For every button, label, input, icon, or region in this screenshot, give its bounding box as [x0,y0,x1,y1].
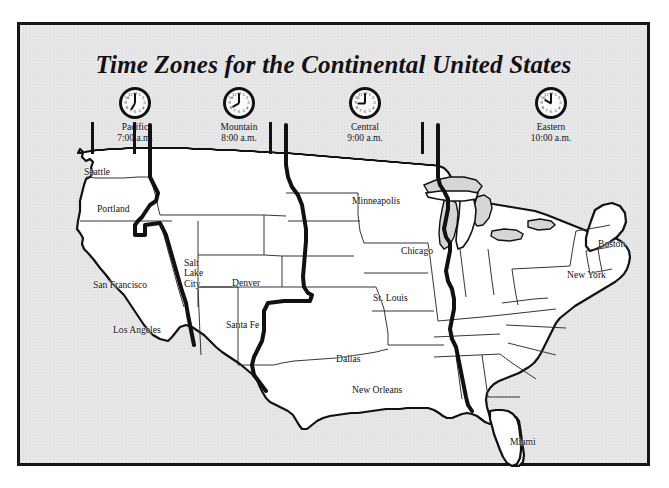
city-label-dallas: Dallas [336,354,361,365]
zone-label-mountain: Mountain [184,122,294,133]
clock-numeral: 1 [369,93,371,98]
city-label-miami: Miami [510,437,536,448]
zone-time-pacific: 7:00 a.m. [80,133,190,144]
clock-numeral: 1 [243,93,245,98]
clock-numeral: 6 [364,110,366,115]
city-label-portland: Portland [97,204,130,215]
clock-numeral: 8 [356,105,358,110]
zone-block-eastern: 12 1 2 3 4 5 6 7 8 9 10 11 Eastern 10:00… [496,87,606,144]
clock-numeral: 6 [550,110,552,115]
city-label-st-louis: St. Louis [373,293,408,304]
clock-numeral: 4 [246,105,248,110]
city-label-los-angeles: Los Angeles [113,325,161,336]
clock-numeral: 6 [134,110,136,115]
page-title: Time Zones for the Continental United St… [20,51,647,79]
city-label-minneapolis: Minneapolis [352,196,400,207]
clock-numeral: 5 [555,109,557,114]
city-label-line: City [184,279,203,289]
city-label-new-york: New York [567,270,606,281]
city-label-new-orleans: New Orleans [352,385,402,396]
zone-label-eastern: Eastern [496,122,606,133]
clock-numeral: 9 [228,101,230,106]
city-label-boston: Boston [598,239,625,250]
clock-eastern: 12 1 2 3 4 5 6 7 8 9 10 11 [535,87,567,119]
clock-numeral: 4 [372,105,374,110]
clock-numeral: 11 [544,93,548,98]
zone-label-central: Central [310,122,420,133]
clock-numeral: 4 [558,105,560,110]
zone-divider-tick-central-eastern [421,122,424,154]
city-label-denver: Denver [232,278,260,289]
clock-numeral: 11 [232,93,236,98]
city-label-chicago: Chicago [401,246,433,257]
clock-numeral: 1 [139,93,141,98]
clock-numeral: 9 [124,101,126,106]
clock-numeral: 1 [555,93,557,98]
clock-numeral: 7 [545,109,547,114]
clock-numeral: 11 [358,93,362,98]
city-label-salt-lake-city: Salt Lake City [184,258,203,289]
city-label-seattle: Seattle [84,167,110,178]
zone-block-central: 12 1 2 3 4 5 6 7 8 9 10 11 Central 9:00 … [310,87,420,144]
clock-numeral: 7 [233,109,235,114]
city-label-santa-fe: Santa Fe [226,320,259,331]
zone-label-pacific: Pacific [80,122,190,133]
clock-numeral: 9 [540,101,542,106]
zone-block-mountain: 12 1 2 3 4 5 6 7 8 9 10 11 Mountain 8:00… [184,87,294,144]
clock-numeral: 5 [139,109,141,114]
clock-numeral: 11 [128,93,132,98]
zone-time-eastern: 10:00 a.m. [496,133,606,144]
zone-time-mountain: 8:00 a.m. [184,133,294,144]
time-zone-map-page: Time Zones for the Continental United St… [0,0,669,488]
clock-numeral: 7 [359,109,361,114]
clock-numeral: 8 [542,105,544,110]
clock-numeral: 6 [238,110,240,115]
clock-numeral: 8 [126,105,128,110]
clock-numeral: 5 [243,109,245,114]
clock-numeral: 5 [369,109,371,114]
clock-mountain: 12 1 2 3 4 5 6 7 8 9 10 11 [223,87,255,119]
clock-central: 12 1 2 3 4 5 6 7 8 9 10 11 [349,87,381,119]
clock-numeral: 4 [142,105,144,110]
zone-block-pacific: 12 1 2 3 4 5 6 7 8 9 10 11 Pacific 7:00 … [80,87,190,144]
clock-pacific: 12 1 2 3 4 5 6 7 8 9 10 11 [119,87,151,119]
poster-frame: Time Zones for the Continental United St… [17,22,650,466]
city-label-san-francisco: San Francisco [93,280,147,291]
zone-time-central: 9:00 a.m. [310,133,420,144]
